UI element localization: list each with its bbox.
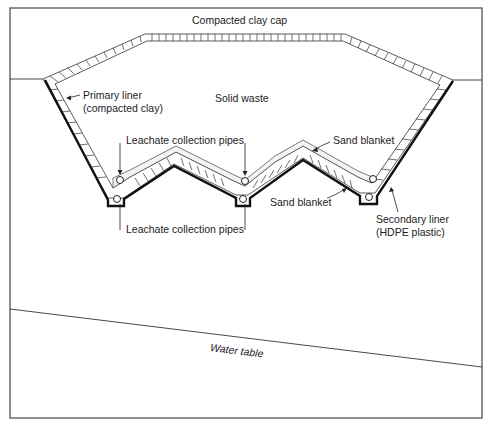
label-water-table: Water table: [210, 341, 265, 359]
pipe-upper-2: [242, 178, 249, 185]
landfill-diagram: Compacted clay cap Solid waste Primary l…: [0, 0, 490, 427]
label-secondary-liner: Secondary liner: [376, 213, 449, 225]
pipe-lower-1: [114, 196, 121, 203]
pipe-upper-3: [370, 176, 377, 183]
pointer-lines: [66, 95, 398, 230]
label-sand-blanket-upper: Sand blanket: [333, 134, 394, 146]
water-table-line: [10, 309, 482, 367]
clay-cap: [43, 34, 453, 85]
label-primary-liner: Primary liner: [83, 89, 142, 101]
pipe-upper-1: [117, 177, 124, 184]
label-primary-liner-sub: (compacted clay): [83, 102, 163, 114]
pipe-lower-2: [240, 196, 247, 203]
label-secondary-liner-sub: (HDPE plastic): [376, 226, 445, 238]
label-clay-cap: Compacted clay cap: [192, 14, 287, 26]
label-pipes-upper: Leachate collection pipes: [126, 134, 244, 146]
label-pipes-lower: Leachate collection pipes: [126, 223, 244, 235]
label-sand-blanket-lower: Sand blanket: [270, 196, 331, 208]
label-solid-waste: Solid waste: [215, 92, 269, 104]
pipe-lower-3: [366, 194, 373, 201]
